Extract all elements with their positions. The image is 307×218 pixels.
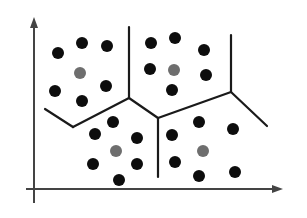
boundary-line [129, 98, 158, 118]
data-point [113, 174, 125, 186]
data-point [76, 95, 88, 107]
centroid-point [110, 145, 122, 157]
data-point [52, 47, 64, 59]
centroid-point [197, 145, 209, 157]
data-point [227, 123, 239, 135]
data-point [200, 69, 212, 81]
data-point [193, 116, 205, 128]
data-point [131, 158, 143, 170]
data-point [144, 63, 156, 75]
cluster-bottom-right [166, 116, 241, 182]
boundary-line [231, 92, 267, 126]
data-point [49, 85, 61, 97]
data-point [169, 32, 181, 44]
data-point [89, 128, 101, 140]
y-axis-arrow-icon [30, 17, 38, 28]
data-point [101, 40, 113, 52]
centroid-point [168, 64, 180, 76]
voronoi-diagram [0, 0, 307, 218]
data-point [76, 37, 88, 49]
data-point [166, 129, 178, 141]
data-point [198, 44, 210, 56]
data-point [169, 156, 181, 168]
cluster-bottom-left [87, 116, 143, 186]
cluster-top-left [49, 37, 113, 107]
boundary-line [45, 109, 73, 127]
data-point [166, 84, 178, 96]
data-point [107, 116, 119, 128]
data-point [145, 37, 157, 49]
plot-area [0, 0, 307, 218]
data-point [100, 80, 112, 92]
boundary-line [158, 92, 231, 118]
data-point [193, 170, 205, 182]
data-point [87, 158, 99, 170]
cluster-top-right [144, 32, 212, 96]
data-point [131, 132, 143, 144]
x-axis-arrow-icon [272, 185, 283, 193]
centroid-point [74, 67, 86, 79]
data-point [229, 166, 241, 178]
